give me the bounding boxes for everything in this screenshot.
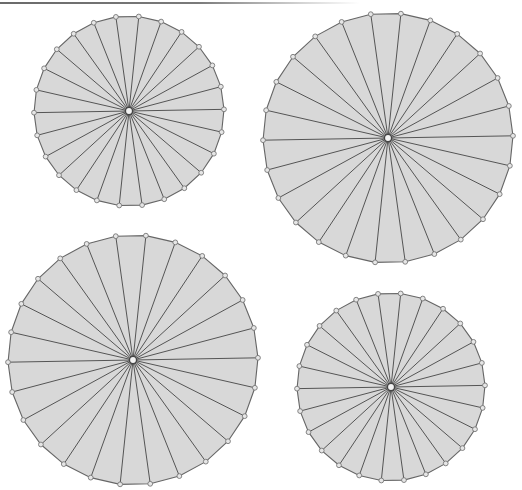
vertex-node: [199, 170, 204, 175]
vertex-node: [379, 478, 384, 483]
vertex-node: [403, 259, 408, 264]
vertex-node: [117, 203, 122, 208]
wheel-diagram-canvas: [0, 0, 522, 490]
vertex-node: [458, 237, 463, 242]
vertex-node: [495, 76, 500, 81]
vertex-node: [398, 291, 403, 296]
vertex-node: [10, 390, 15, 395]
vertex-node: [144, 233, 149, 238]
vertex-node: [481, 217, 486, 222]
wheel-top-right: [261, 11, 516, 264]
vertex-node: [218, 84, 223, 89]
vertex-node: [458, 321, 463, 326]
vertex-node: [136, 14, 141, 19]
vertex-node: [471, 339, 476, 344]
vertex-node: [71, 31, 76, 36]
vertex-node: [256, 355, 261, 360]
vertex-node: [54, 47, 59, 52]
vertex-node: [39, 442, 44, 447]
vertex-node: [455, 32, 460, 37]
vertex-node: [354, 297, 359, 302]
vertex-node: [297, 364, 302, 369]
vertex-node: [42, 66, 47, 71]
vertex-node: [343, 253, 348, 258]
vertex-node: [291, 54, 296, 59]
vertex-node: [460, 446, 465, 451]
vertex-node: [295, 386, 300, 391]
vertex-node: [368, 12, 373, 17]
wheel-top-left: [32, 14, 227, 208]
vertex-node: [182, 186, 187, 191]
vertex-node: [91, 20, 96, 25]
vertex-node: [177, 474, 182, 479]
vertex-node: [32, 110, 37, 115]
vertex-node: [6, 360, 11, 365]
vertex-node: [423, 472, 428, 477]
vertex-node: [43, 154, 48, 159]
vertex-node: [317, 324, 322, 329]
vertex-node: [298, 409, 303, 414]
wheels-layer: [6, 11, 516, 486]
vertex-node: [84, 242, 89, 247]
vertex-node: [219, 130, 224, 135]
vertex-node: [203, 459, 208, 464]
vertex-node: [265, 168, 270, 173]
hub-node: [384, 134, 391, 141]
vertex-node: [339, 20, 344, 25]
vertex-node: [306, 430, 311, 435]
vertex-node: [35, 133, 40, 138]
vertex-node: [19, 301, 24, 306]
vertex-node: [357, 473, 362, 478]
vertex-node: [441, 306, 446, 311]
vertex-node: [483, 383, 488, 388]
hub-node: [387, 383, 394, 390]
vertex-node: [74, 188, 79, 193]
vertex-node: [36, 276, 41, 281]
hub-node: [129, 356, 136, 363]
vertex-node: [319, 448, 324, 453]
wheel-bottom-left: [6, 233, 261, 486]
vertex-node: [420, 296, 425, 301]
vertex-node: [140, 203, 145, 208]
vertex-node: [264, 108, 269, 113]
hub-node: [125, 107, 132, 114]
vertex-node: [58, 256, 63, 261]
vertex-node: [507, 163, 512, 168]
vertex-node: [276, 196, 281, 201]
vertex-node: [197, 44, 202, 49]
vertex-node: [240, 298, 245, 303]
vertex-node: [506, 104, 511, 109]
vertex-node: [261, 138, 266, 143]
vertex-node: [113, 234, 118, 239]
vertex-node: [200, 254, 205, 259]
vertex-node: [428, 18, 433, 23]
vertex-node: [373, 260, 378, 265]
vertex-node: [334, 308, 339, 313]
vertex-node: [57, 173, 62, 178]
vertex-node: [114, 15, 119, 20]
vertex-node: [252, 385, 257, 390]
vertex-node: [402, 478, 407, 483]
vertex-node: [294, 220, 299, 225]
vertex-node: [210, 63, 215, 68]
vertex-node: [148, 481, 153, 486]
vertex-node: [473, 427, 478, 432]
vertex-node: [376, 292, 381, 297]
vertex-node: [443, 461, 448, 466]
vertex-node: [251, 326, 256, 331]
vertex-node: [223, 273, 228, 278]
vertex-node: [313, 34, 318, 39]
vertex-node: [497, 192, 502, 197]
vertex-node: [211, 151, 216, 156]
vertex-node: [316, 240, 321, 245]
wheel-bottom-right: [295, 291, 488, 483]
vertex-node: [118, 482, 123, 487]
vertex-node: [162, 197, 167, 202]
vertex-node: [478, 51, 483, 56]
vertex-node: [480, 406, 485, 411]
vertex-node: [88, 475, 93, 480]
vertex-node: [226, 439, 231, 444]
vertex-node: [34, 87, 39, 92]
vertex-node: [9, 330, 14, 335]
vertex-node: [159, 19, 164, 24]
